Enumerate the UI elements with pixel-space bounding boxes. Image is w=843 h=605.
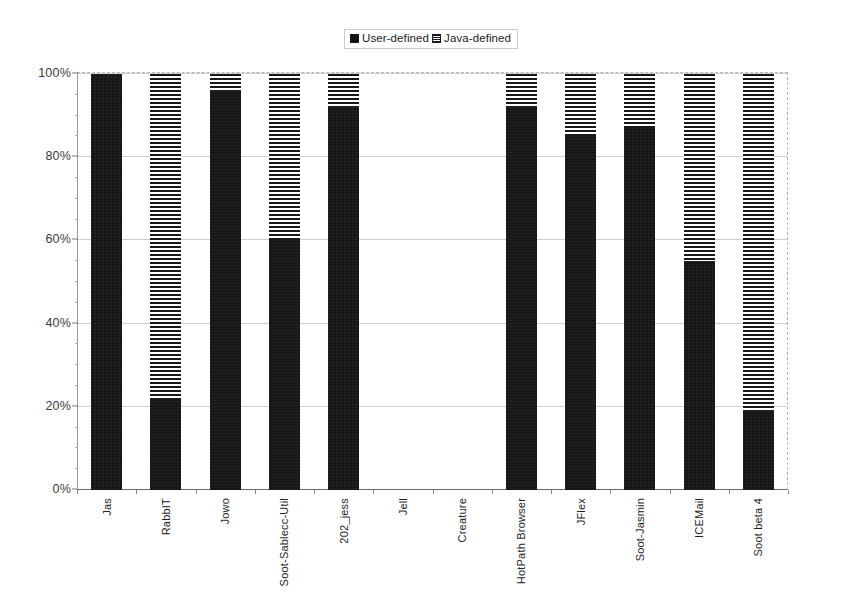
bar-slot (136, 72, 195, 490)
bar-segment-user-defined[interactable] (150, 398, 181, 490)
bar-segment-user-defined[interactable] (91, 74, 122, 490)
x-label-slot: Soot beta 4 (729, 495, 788, 603)
bar-slot (492, 72, 551, 490)
x-axis-category-label: HotPath Browser (516, 498, 527, 584)
bar-slot (196, 72, 255, 490)
stacked-bar[interactable] (269, 72, 300, 490)
x-axis-category-label: Creature (457, 498, 468, 542)
bar-segment-java-defined[interactable] (684, 74, 715, 261)
x-axis-labels: JasRabbITJowoSoot-Sablecc-Util202_jessJe… (77, 495, 788, 603)
x-axis-tick-mark (196, 490, 197, 494)
stacked-bar[interactable] (743, 72, 774, 490)
x-axis-tick-mark (492, 490, 493, 494)
stacked-bar[interactable] (328, 72, 359, 490)
bar-segment-user-defined[interactable] (624, 128, 655, 490)
x-label-slot: Jell (373, 495, 432, 603)
bar-segment-user-defined[interactable] (743, 411, 774, 490)
bar-segment-user-defined[interactable] (684, 261, 715, 490)
bar-segment-java-defined[interactable] (743, 74, 774, 411)
x-axis-category-label: JFlex (575, 498, 586, 525)
chart-legend: User-defined Java-defined (344, 29, 518, 49)
x-axis-category-label: Soot-Jasmin (634, 498, 645, 561)
x-axis-tick-mark (136, 490, 137, 494)
x-axis-tick-mark (373, 490, 374, 494)
x-axis-tick-mark (670, 490, 671, 494)
x-label-slot: Soot-Jasmin (610, 495, 669, 603)
legend-entry-user-defined: User-defined (350, 32, 429, 45)
x-axis-tick-mark (551, 490, 552, 494)
stacked-bar[interactable] (506, 72, 537, 490)
stacked-bar[interactable] (387, 72, 418, 490)
legend-swatch-solid-icon (350, 34, 359, 43)
bar-segment-user-defined[interactable] (328, 107, 359, 490)
x-label-slot: RabbIT (136, 495, 195, 603)
bar-slot (77, 72, 136, 490)
y-axis-tick-label: 0% (53, 482, 71, 496)
bar-segment-java-defined[interactable] (565, 74, 596, 136)
x-label-slot: ICEMail (670, 495, 729, 603)
legend-entry-java-defined: Java-defined (432, 32, 511, 45)
x-axis-category-label: Soot-Sablecc-Util (279, 498, 290, 586)
x-label-slot: 202_jess (314, 495, 373, 603)
bar-segment-java-defined[interactable] (506, 74, 537, 107)
bar-segment-java-defined[interactable] (269, 74, 300, 240)
stacked-bar[interactable] (150, 72, 181, 490)
x-axis-category-label: Jell (397, 498, 408, 515)
x-axis-category-label: ICEMail (694, 498, 705, 538)
x-axis-category-label: Jas (101, 498, 112, 516)
y-axis-tick-label: 40% (45, 316, 71, 330)
stacked-bar[interactable] (684, 72, 715, 490)
bar-segment-user-defined[interactable] (565, 136, 596, 490)
y-axis-tick-label: 100% (38, 66, 71, 80)
bar-segment-user-defined[interactable] (506, 107, 537, 490)
x-axis-tick-mark (433, 490, 434, 494)
bar-segment-user-defined[interactable] (210, 91, 241, 490)
x-axis-tick-mark (77, 490, 78, 494)
x-axis-tick-mark (788, 490, 789, 494)
bar-slot (255, 72, 314, 490)
stacked-bar[interactable] (565, 72, 596, 490)
x-axis-tick-mark (729, 490, 730, 494)
x-label-slot: HotPath Browser (492, 495, 551, 603)
legend-swatch-striped-icon (432, 34, 441, 43)
x-axis-tick-mark (255, 490, 256, 494)
bar-slot (373, 72, 432, 490)
legend-label-java-defined: Java-defined (444, 32, 511, 45)
bar-segment-java-defined[interactable] (328, 74, 359, 107)
stacked-bar[interactable] (447, 72, 478, 490)
bar-slot (729, 72, 788, 490)
y-axis-tick-label: 60% (45, 232, 71, 246)
bar-series-container (77, 72, 788, 490)
bar-slot (610, 72, 669, 490)
y-axis-tick-label: 80% (45, 149, 71, 163)
x-axis-category-label: Soot beta 4 (753, 498, 764, 556)
stacked-bar[interactable] (91, 72, 122, 490)
x-axis-category-label: Jowo (220, 498, 231, 524)
bar-slot (670, 72, 729, 490)
x-label-slot: Creature (433, 495, 492, 603)
stacked-bar[interactable] (210, 72, 241, 490)
x-label-slot: Soot-Sablecc-Util (255, 495, 314, 603)
x-label-slot: Jas (77, 495, 136, 603)
x-axis-category-label: 202_jess (338, 498, 349, 544)
bar-segment-java-defined[interactable] (624, 74, 655, 128)
bar-slot (433, 72, 492, 490)
legend-label-user-defined: User-defined (362, 32, 429, 45)
bar-slot (551, 72, 610, 490)
y-axis-tick-label: 20% (45, 399, 71, 413)
x-label-slot: JFlex (551, 495, 610, 603)
x-axis-category-label: RabbIT (160, 498, 171, 535)
bar-segment-user-defined[interactable] (269, 240, 300, 490)
stacked-bar[interactable] (624, 72, 655, 490)
bar-slot (314, 72, 373, 490)
bar-segment-java-defined[interactable] (150, 74, 181, 398)
x-axis-tick-mark (610, 490, 611, 494)
bar-segment-java-defined[interactable] (210, 74, 241, 91)
x-label-slot: Jowo (196, 495, 255, 603)
x-axis-tick-mark (314, 490, 315, 494)
